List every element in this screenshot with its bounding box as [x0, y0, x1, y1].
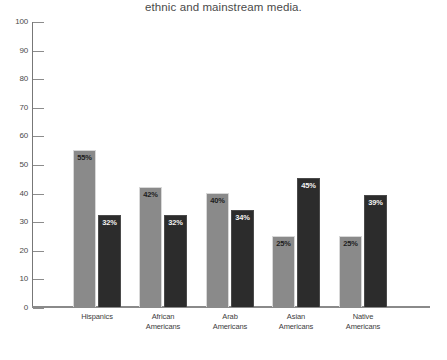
y-tick-label-10: 10 — [2, 275, 28, 283]
y-tick-label-0: 0 — [2, 304, 28, 312]
bar-value-label: 32% — [99, 219, 120, 227]
y-tick-label-70: 70 — [2, 104, 28, 112]
y-tick-100 — [33, 22, 44, 23]
bar-light-series-4: 25% — [339, 236, 362, 308]
category-label-2: ArabAmericans — [196, 312, 264, 332]
x-axis-category-labels: HispanicsAfricanAmericansArabAmericansAs… — [32, 312, 430, 352]
category-label-1: AfricanAmericans — [129, 312, 197, 332]
y-tick-label-90: 90 — [2, 47, 28, 55]
bar-value-label: 55% — [74, 154, 95, 162]
bar-light-series-2: 40% — [206, 193, 229, 307]
y-tick-40 — [33, 194, 44, 195]
bar-chart: ethnic and mainstream media. 01020304050… — [0, 0, 447, 360]
y-tick-label-60: 60 — [2, 132, 28, 140]
bar-value-label: 39% — [365, 199, 386, 207]
y-tick-90 — [33, 51, 44, 52]
y-tick-70 — [33, 108, 44, 109]
bar-dark-series-2: 34% — [231, 210, 254, 307]
plot-area: 55%32%42%32%40%34%25%45%25%39% — [32, 22, 430, 308]
y-tick-label-50: 50 — [2, 161, 28, 169]
y-tick-60 — [33, 136, 44, 137]
chart-title: ethnic and mainstream media. — [0, 1, 447, 13]
bar-value-label: 34% — [232, 214, 253, 222]
bar-value-label: 32% — [165, 219, 186, 227]
bar-light-series-3: 25% — [272, 236, 295, 308]
bar-dark-series-0: 32% — [98, 215, 121, 307]
y-tick-10 — [33, 279, 44, 280]
y-tick-label-30: 30 — [2, 218, 28, 226]
category-label-3: AsianAmericans — [262, 312, 330, 332]
y-tick-label-20: 20 — [2, 247, 28, 255]
y-tick-80 — [33, 79, 44, 80]
category-label-4: NativeAmericans — [329, 312, 397, 332]
bar-value-label: 40% — [207, 197, 228, 205]
y-tick-0 — [33, 308, 44, 309]
y-tick-30 — [33, 222, 44, 223]
bar-dark-series-4: 39% — [364, 195, 387, 307]
bar-light-series-1: 42% — [139, 187, 162, 307]
category-label-0: Hispanics — [63, 312, 131, 322]
y-tick-label-100: 100 — [2, 18, 28, 26]
bar-value-label: 25% — [273, 240, 294, 248]
y-tick-50 — [33, 165, 44, 166]
bar-value-label: 45% — [298, 182, 319, 190]
bar-value-label: 25% — [340, 240, 361, 248]
bar-dark-series-1: 32% — [164, 215, 187, 307]
y-axis-labels: 0102030405060708090100 — [0, 22, 28, 308]
bar-dark-series-3: 45% — [297, 178, 320, 307]
y-tick-label-40: 40 — [2, 190, 28, 198]
y-tick-label-80: 80 — [2, 75, 28, 83]
y-tick-20 — [33, 251, 44, 252]
bar-value-label: 42% — [140, 191, 161, 199]
bar-light-series-0: 55% — [73, 150, 96, 307]
